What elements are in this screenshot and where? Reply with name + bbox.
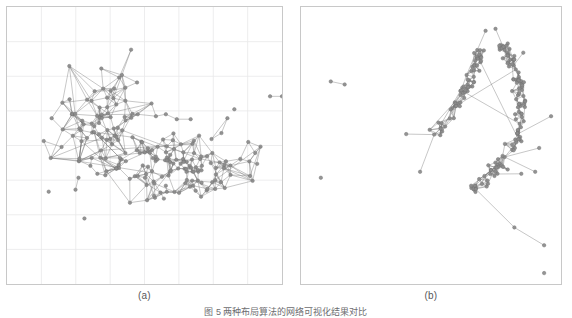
network-panel-b [300, 6, 562, 285]
network-graph-a [7, 7, 282, 284]
graph-edges [44, 50, 282, 203]
graph-nodes [319, 27, 553, 275]
panel-b-label: (b) [300, 290, 562, 302]
network-panel-a [6, 6, 283, 285]
grid-lines [7, 7, 282, 284]
graph-edges [331, 29, 551, 245]
figure-caption: 图 5 两种布局算法的网络可视化结果对比 [0, 307, 572, 318]
panel-a-label: (a) [6, 290, 283, 302]
network-graph-b [301, 7, 561, 284]
